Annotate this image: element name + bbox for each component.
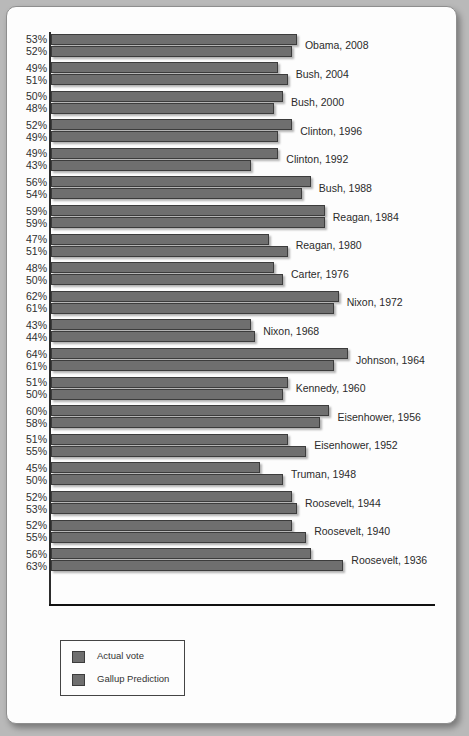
gallup-prediction-value-label: 59% bbox=[13, 217, 47, 229]
actual-vote-value-label: 56% bbox=[13, 548, 47, 560]
bar-gallup-prediction bbox=[51, 131, 278, 142]
bar-actual-vote bbox=[51, 119, 292, 130]
bar-actual-vote bbox=[51, 434, 288, 445]
bar-actual-vote bbox=[51, 491, 292, 502]
actual-vote-value-label: 51% bbox=[13, 376, 47, 388]
chart-row: 60%58%Eisenhower, 1956 bbox=[7, 404, 457, 433]
bar-gallup-prediction bbox=[51, 331, 255, 342]
bar-actual-vote bbox=[51, 176, 311, 187]
bar-actual-vote bbox=[51, 377, 288, 388]
row-category-label: Roosevelt, 1936 bbox=[351, 554, 427, 566]
chart-row: 64%61%Johnson, 1964 bbox=[7, 347, 457, 376]
legend-swatch-icon bbox=[72, 651, 85, 663]
bar-actual-vote bbox=[51, 34, 297, 45]
row-category-label: Reagan, 1984 bbox=[333, 211, 399, 223]
actual-vote-value-label: 52% bbox=[13, 519, 47, 531]
row-category-label: Roosevelt, 1940 bbox=[314, 525, 390, 537]
bar-actual-vote bbox=[51, 319, 251, 330]
row-category-label: Truman, 1948 bbox=[291, 468, 356, 480]
bar-actual-vote bbox=[51, 148, 278, 159]
bar-gallup-prediction bbox=[51, 303, 334, 314]
actual-vote-value-label: 49% bbox=[13, 62, 47, 74]
gallup-prediction-value-label: 50% bbox=[13, 274, 47, 286]
value-axis-line bbox=[49, 604, 435, 606]
chart-row: 43%44%Nixon, 1968 bbox=[7, 318, 457, 347]
bar-actual-vote bbox=[51, 548, 311, 559]
bar-gallup-prediction bbox=[51, 246, 288, 257]
actual-vote-value-label: 48% bbox=[13, 262, 47, 274]
gallup-prediction-value-label: 55% bbox=[13, 531, 47, 543]
chart-row: 51%55%Eisenhower, 1952 bbox=[7, 432, 457, 461]
bar-actual-vote bbox=[51, 62, 278, 73]
row-category-label: Bush, 2004 bbox=[296, 68, 349, 80]
actual-vote-value-label: 64% bbox=[13, 348, 47, 360]
bar-gallup-prediction bbox=[51, 360, 334, 371]
bar-actual-vote bbox=[51, 262, 274, 273]
bar-gallup-prediction bbox=[51, 389, 283, 400]
row-category-label: Nixon, 1968 bbox=[263, 325, 319, 337]
bar-actual-vote bbox=[51, 91, 283, 102]
row-category-label: Kennedy, 1960 bbox=[296, 382, 366, 394]
gallup-prediction-value-label: 63% bbox=[13, 560, 47, 572]
gallup-prediction-value-label: 51% bbox=[13, 245, 47, 257]
chart-row: 56%63%Roosevelt, 1936 bbox=[7, 547, 457, 576]
chart-rows: 53%52%Obama, 200849%51%Bush, 200450%48%B… bbox=[7, 32, 457, 575]
bar-gallup-prediction bbox=[51, 160, 251, 171]
actual-vote-value-label: 60% bbox=[13, 405, 47, 417]
row-category-label: Clinton, 1996 bbox=[300, 125, 362, 137]
gallup-prediction-value-label: 43% bbox=[13, 159, 47, 171]
legend-swatch-icon bbox=[72, 674, 85, 686]
actual-vote-value-label: 59% bbox=[13, 205, 47, 217]
row-category-label: Eisenhower, 1952 bbox=[314, 439, 397, 451]
row-category-label: Obama, 2008 bbox=[305, 39, 369, 51]
gallup-prediction-value-label: 53% bbox=[13, 503, 47, 515]
bar-actual-vote bbox=[51, 405, 329, 416]
chart-row: 49%51%Bush, 2004 bbox=[7, 61, 457, 90]
row-category-label: Nixon, 1972 bbox=[347, 296, 403, 308]
chart-row: 53%52%Obama, 2008 bbox=[7, 32, 457, 61]
chart-row: 51%50%Kennedy, 1960 bbox=[7, 375, 457, 404]
bar-actual-vote bbox=[51, 348, 348, 359]
bar-gallup-prediction bbox=[51, 503, 297, 514]
gallup-prediction-value-label: 61% bbox=[13, 360, 47, 372]
actual-vote-value-label: 45% bbox=[13, 462, 47, 474]
chart-row: 50%48%Bush, 2000 bbox=[7, 89, 457, 118]
row-category-label: Carter, 1976 bbox=[291, 268, 349, 280]
bar-gallup-prediction bbox=[51, 417, 320, 428]
legend-label: Actual vote bbox=[97, 650, 144, 661]
bar-actual-vote bbox=[51, 205, 325, 216]
chart-row: 47%51%Reagan, 1980 bbox=[7, 232, 457, 261]
row-category-label: Reagan, 1980 bbox=[296, 239, 362, 251]
gallup-prediction-value-label: 58% bbox=[13, 417, 47, 429]
bar-actual-vote bbox=[51, 291, 339, 302]
bar-actual-vote bbox=[51, 234, 269, 245]
legend-label: Gallup Prediction bbox=[97, 673, 169, 684]
gallup-prediction-value-label: 49% bbox=[13, 131, 47, 143]
bar-gallup-prediction bbox=[51, 532, 306, 543]
gallup-prediction-value-label: 44% bbox=[13, 331, 47, 343]
chart-row: 52%53%Roosevelt, 1944 bbox=[7, 490, 457, 519]
gallup-prediction-value-label: 48% bbox=[13, 102, 47, 114]
actual-vote-value-label: 51% bbox=[13, 433, 47, 445]
chart-row: 48%50%Carter, 1976 bbox=[7, 261, 457, 290]
chart-row: 56%54%Bush, 1988 bbox=[7, 175, 457, 204]
chart-row: 52%55%Roosevelt, 1940 bbox=[7, 518, 457, 547]
gallup-prediction-value-label: 51% bbox=[13, 74, 47, 86]
gallup-prediction-value-label: 61% bbox=[13, 302, 47, 314]
bar-gallup-prediction bbox=[51, 474, 283, 485]
chart-row: 52%49%Clinton, 1996 bbox=[7, 118, 457, 147]
actual-vote-value-label: 52% bbox=[13, 119, 47, 131]
actual-vote-value-label: 47% bbox=[13, 233, 47, 245]
row-category-label: Bush, 2000 bbox=[291, 96, 344, 108]
bar-gallup-prediction bbox=[51, 103, 274, 114]
row-category-label: Eisenhower, 1956 bbox=[337, 411, 420, 423]
gallup-prediction-value-label: 52% bbox=[13, 45, 47, 57]
bar-actual-vote bbox=[51, 462, 260, 473]
actual-vote-value-label: 49% bbox=[13, 147, 47, 159]
actual-vote-value-label: 52% bbox=[13, 491, 47, 503]
figure-card: 53%52%Obama, 200849%51%Bush, 200450%48%B… bbox=[6, 6, 457, 724]
bar-gallup-prediction bbox=[51, 46, 292, 57]
bar-gallup-prediction bbox=[51, 274, 283, 285]
chart-row: 62%61%Nixon, 1972 bbox=[7, 289, 457, 318]
gallup-prediction-value-label: 54% bbox=[13, 188, 47, 200]
